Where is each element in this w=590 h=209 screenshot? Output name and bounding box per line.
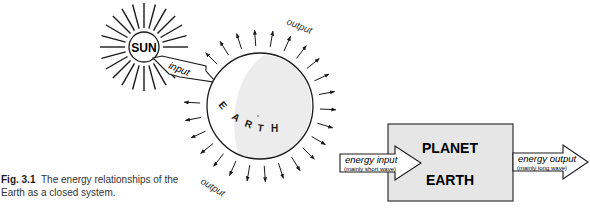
energy-output-sublabel: (mainly long wave) bbox=[517, 165, 567, 171]
energy-output-label: energy output bbox=[518, 153, 576, 164]
sun-label: SUN bbox=[131, 41, 156, 55]
energy-input-sublabel: (mainly short wave) bbox=[344, 166, 396, 172]
figure-caption: Fig. 3.1 The energy relationships of the… bbox=[1, 173, 201, 199]
earth-globe: E A R T H bbox=[207, 53, 313, 159]
output-label-top: output bbox=[285, 16, 314, 36]
box-title-line2: EARTH bbox=[426, 172, 474, 188]
energy-input-label: energy input bbox=[345, 154, 398, 165]
output-label-bottom: output bbox=[199, 175, 228, 199]
sun: SUN bbox=[100, 3, 188, 91]
figure-number: Fig. 3.1 bbox=[1, 174, 35, 185]
earth-letter-h: H bbox=[271, 123, 278, 134]
box-title-line1: PLANET bbox=[422, 140, 478, 156]
energy-output-arrow: energy output (mainly long wave) bbox=[513, 145, 588, 179]
